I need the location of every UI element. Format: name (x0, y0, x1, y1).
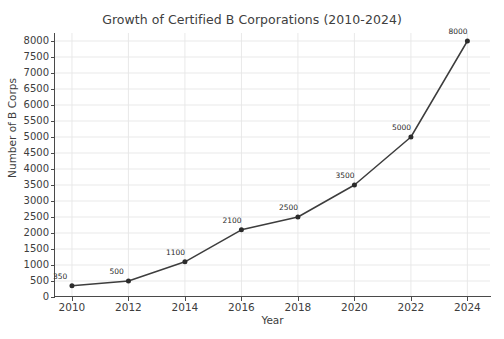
data-point-label: 350 (53, 272, 67, 281)
data-point-label: 2100 (222, 216, 241, 225)
data-point-label: 3500 (335, 171, 354, 180)
x-axis-title: Year (55, 314, 490, 326)
data-point-label: 1100 (166, 248, 185, 257)
data-point-labels: 350500110021002500350050008000 (0, 0, 504, 339)
data-point-label: 2500 (279, 203, 298, 212)
data-point-label: 500 (109, 267, 123, 276)
data-point-label: 5000 (392, 123, 411, 132)
y-axis-title: Number of B Corps (6, 8, 18, 248)
chart-figure: Growth of Certified B Corporations (2010… (0, 0, 504, 339)
data-point-label: 8000 (448, 27, 467, 36)
